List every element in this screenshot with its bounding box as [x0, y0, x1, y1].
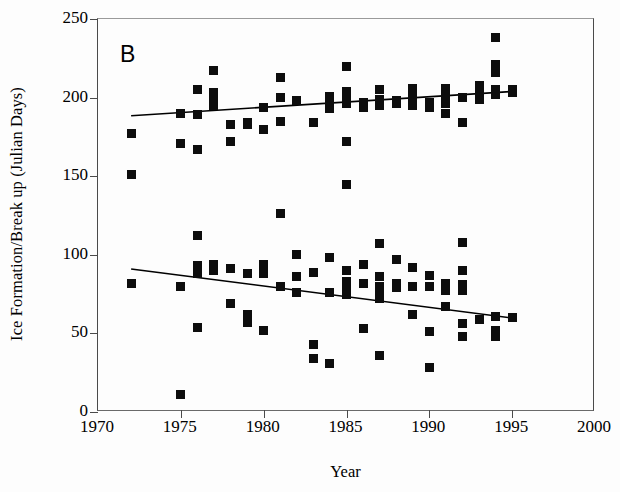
- data-point-marker: [292, 250, 301, 259]
- x-axis-tick-label: 1975: [150, 417, 210, 437]
- data-point-marker: [342, 99, 351, 108]
- data-point-marker: [243, 269, 252, 278]
- data-point-marker: [193, 323, 202, 332]
- data-point-marker: [359, 260, 368, 269]
- x-axis-title: Year: [97, 462, 594, 482]
- x-axis-tick-label: 1990: [398, 417, 458, 437]
- x-axis-tick-label: 1995: [481, 417, 541, 437]
- data-point-marker: [408, 101, 417, 110]
- data-point-marker: [441, 109, 450, 118]
- data-point-marker: [408, 310, 417, 319]
- data-point-marker: [491, 312, 500, 321]
- data-point-marker: [491, 90, 500, 99]
- data-point-marker: [276, 93, 285, 102]
- data-point-marker: [475, 315, 484, 324]
- data-point-marker: [292, 96, 301, 105]
- data-point-marker: [193, 85, 202, 94]
- data-point-marker: [193, 145, 202, 154]
- data-point-marker: [127, 279, 136, 288]
- data-point-marker: [408, 282, 417, 291]
- data-point-marker: [325, 253, 334, 262]
- figure-scatter-ice-phenology: Ice Formation/Break up (Julian Days) 050…: [0, 0, 620, 492]
- data-point-marker: [276, 282, 285, 291]
- data-point-marker: [425, 327, 434, 336]
- y-axis-tick-label: 50: [36, 323, 88, 340]
- data-point-marker: [491, 33, 500, 42]
- data-point-marker: [425, 363, 434, 372]
- data-point-marker: [176, 282, 185, 291]
- data-point-marker: [342, 137, 351, 146]
- y-axis-tick-label: 100: [36, 245, 88, 262]
- data-point-marker: [209, 66, 218, 75]
- data-point-marker: [259, 326, 268, 335]
- x-axis-tick-labels: 1970197519801985199019952000: [0, 417, 620, 443]
- data-point-marker: [325, 288, 334, 297]
- data-point-marker: [193, 231, 202, 240]
- data-point-marker: [475, 95, 484, 104]
- y-axis-title: Ice Formation/Break up (Julian Days): [4, 4, 30, 424]
- data-point-marker: [276, 209, 285, 218]
- data-point-marker: [193, 269, 202, 278]
- plot-svg-layer: [98, 19, 595, 412]
- data-point-marker: [193, 110, 202, 119]
- data-point-marker: [309, 340, 318, 349]
- data-point-marker: [392, 255, 401, 264]
- data-point-marker: [375, 294, 384, 303]
- y-axis-tick-label: 200: [36, 88, 88, 105]
- data-point-marker: [176, 139, 185, 148]
- data-point-marker: [375, 85, 384, 94]
- data-point-marker: [491, 68, 500, 77]
- data-point-marker: [375, 282, 384, 291]
- data-point-marker: [359, 279, 368, 288]
- data-point-marker: [292, 272, 301, 281]
- y-axis-tick: [90, 412, 98, 413]
- x-axis-tick-label: 1970: [67, 417, 127, 437]
- data-point-marker: [325, 104, 334, 113]
- data-point-marker: [276, 73, 285, 82]
- y-axis-tick: [90, 19, 98, 20]
- data-point-marker: [259, 260, 268, 269]
- data-point-marker: [325, 359, 334, 368]
- data-point-marker: [226, 264, 235, 273]
- data-point-marker: [458, 319, 467, 328]
- data-point-marker: [276, 117, 285, 126]
- data-point-marker: [127, 129, 136, 138]
- data-point-marker: [508, 88, 517, 97]
- data-point-marker: [458, 266, 467, 275]
- x-axis-tick-label: 2000: [564, 417, 620, 437]
- x-axis-tick-label: 1985: [316, 417, 376, 437]
- data-point-marker: [359, 324, 368, 333]
- data-point-marker: [392, 283, 401, 292]
- y-axis-tick: [90, 255, 98, 256]
- data-point-marker: [309, 268, 318, 277]
- y-axis-tick: [90, 176, 98, 177]
- data-point-marker: [226, 299, 235, 308]
- data-point-marker: [259, 103, 268, 112]
- data-point-marker: [375, 351, 384, 360]
- data-point-marker: [176, 109, 185, 118]
- data-point-marker: [441, 302, 450, 311]
- data-point-marker: [309, 118, 318, 127]
- data-point-marker: [342, 180, 351, 189]
- data-point-marker: [375, 272, 384, 281]
- data-point-marker: [491, 332, 500, 341]
- data-point-marker: [309, 354, 318, 363]
- data-point-marker: [342, 266, 351, 275]
- data-point-marker: [259, 269, 268, 278]
- data-point-marker: [375, 101, 384, 110]
- data-point-marker: [392, 99, 401, 108]
- y-axis-tick-labels: 050100150200250: [28, 0, 88, 430]
- data-point-marker: [209, 266, 218, 275]
- data-point-marker: [342, 62, 351, 71]
- data-point-marker: [342, 290, 351, 299]
- data-point-marker: [508, 313, 517, 322]
- data-point-marker: [226, 137, 235, 146]
- data-point-marker: [359, 103, 368, 112]
- y-axis-tick: [90, 98, 98, 99]
- data-point-marker: [243, 120, 252, 129]
- data-point-marker: [226, 120, 235, 129]
- data-point-marker: [458, 238, 467, 247]
- data-point-marker: [375, 239, 384, 248]
- data-point-marker: [475, 81, 484, 90]
- data-point-marker: [425, 103, 434, 112]
